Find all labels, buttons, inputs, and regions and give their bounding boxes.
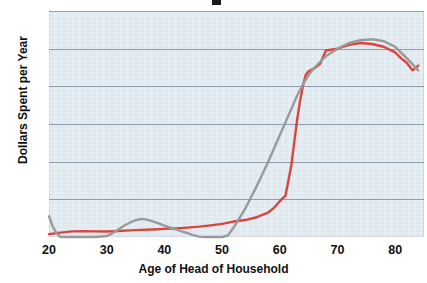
line-chart: 020406080100120 20304050607080 Dollars S… (0, 0, 427, 283)
x-tick-label-20: 20 (29, 244, 69, 257)
series-lines (49, 11, 424, 237)
x-tick-label-30: 30 (87, 244, 127, 257)
y-axis-title: Dollars Spent per Year (16, 10, 30, 190)
x-tick-label-80: 80 (375, 244, 415, 257)
plot-area (49, 11, 424, 237)
x-tick-label-50: 50 (202, 244, 242, 257)
cropped-title-artifact (212, 0, 221, 5)
series-line-gray-series (49, 39, 418, 237)
series-line-red-series (49, 43, 418, 234)
x-tick-label-60: 60 (260, 244, 300, 257)
x-axis-title: Age of Head of Household (0, 262, 427, 276)
x-tick-label-40: 40 (144, 244, 184, 257)
x-tick-label-70: 70 (317, 244, 357, 257)
